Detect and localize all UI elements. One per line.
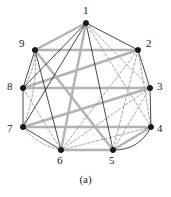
graph-edge-dashed [23,88,61,150]
gray-edge-layer [23,23,151,150]
graph-edge-gray [35,50,113,150]
graph-node-9[interactable] [32,47,37,52]
graph-edge-gray [23,88,150,127]
graph-node-3[interactable] [147,85,152,90]
graph-edge-gray [35,23,86,50]
graph-node-7[interactable] [20,124,25,129]
graph-node-6[interactable] [58,147,63,152]
graph-node-5[interactable] [110,147,115,152]
node-label-4: 4 [157,123,163,134]
node-label-5: 5 [109,155,115,166]
graph-edge-dashed [61,127,151,150]
graph-drawing [0,0,171,170]
node-layer [20,20,153,152]
graph-node-4[interactable] [148,124,153,129]
graph-edge-dashed [86,23,150,88]
graph-node-2[interactable] [135,47,140,52]
node-label-7: 7 [7,123,13,134]
node-label-9: 9 [19,38,25,49]
black-edge-layer [23,23,151,150]
figure-caption: (a) [0,173,171,185]
dashed-edge-layer [23,23,151,150]
graph-node-8[interactable] [20,85,25,90]
graph-node-1[interactable] [83,20,88,25]
graph-edge-black [86,23,138,50]
node-label-8: 8 [7,81,13,92]
node-label-1: 1 [83,5,89,16]
figure-panel: 123456789 (a) [0,0,171,197]
node-label-2: 2 [146,38,152,49]
graph-edge-black [23,127,61,150]
node-label-6: 6 [57,155,63,166]
node-label-3: 3 [157,81,163,92]
